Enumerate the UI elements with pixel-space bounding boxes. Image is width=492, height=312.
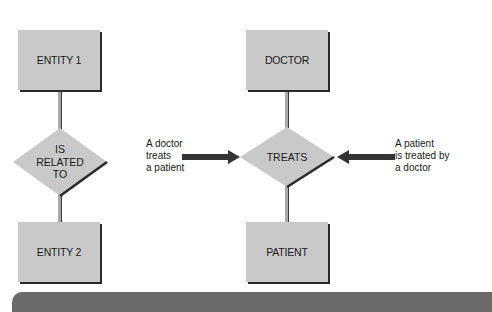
annotation-line: a doctor (395, 162, 449, 174)
entity-label: DOCTOR (265, 54, 309, 66)
arrow-left-icon (337, 150, 395, 164)
entity-box-entity1: ENTITY 1 (18, 30, 100, 90)
bottom-band (12, 292, 492, 312)
annotation-line: a patient (146, 162, 184, 174)
entity-box-patient: PATIENT (246, 222, 328, 282)
relationship-label-generic: IS RELATED TO (20, 143, 100, 181)
relationship-line: TO (20, 168, 100, 181)
annotation-left: A doctor treats a patient (146, 138, 184, 174)
annotation-line: treats (146, 150, 184, 162)
entity-box-doctor: DOCTOR (246, 30, 328, 90)
arrow-right-icon (182, 150, 240, 164)
entity-label: ENTITY 2 (37, 246, 81, 258)
relationship-line: RELATED (20, 156, 100, 169)
annotation-line: is treated by (395, 150, 449, 162)
relationship-line: IS (20, 143, 100, 156)
entity-label: ENTITY 1 (37, 54, 81, 66)
entity-box-entity2: ENTITY 2 (18, 222, 100, 282)
annotation-right: A patient is treated by a doctor (395, 138, 449, 174)
relationship-label-treats: TREATS (247, 151, 327, 164)
entity-label: PATIENT (266, 246, 307, 258)
relationship-line: TREATS (267, 151, 308, 163)
annotation-line: A doctor (146, 138, 184, 150)
annotation-line: A patient (395, 138, 449, 150)
